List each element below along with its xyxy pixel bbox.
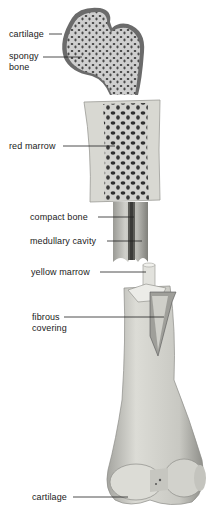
bone-illustration: [0, 0, 219, 514]
label-fibrous-covering-line1: fibrous: [32, 312, 67, 323]
label-fibrous-covering-line2: covering: [32, 323, 67, 334]
label-fibrous-covering: fibrous covering: [32, 312, 67, 334]
label-red-marrow: red marrow: [9, 141, 56, 152]
label-cartilage-top: cartilage: [9, 29, 44, 40]
label-compact-bone: compact bone: [30, 212, 88, 223]
bone-head: [62, 8, 144, 95]
label-spongy-bone-line1: spongy: [9, 51, 39, 62]
label-cartilage-bottom: cartilage: [32, 492, 67, 503]
red-marrow-block: [84, 100, 160, 202]
label-spongy-bone: spongy bone: [9, 51, 39, 73]
label-spongy-bone-line2: bone: [9, 62, 39, 73]
bone-diagram: cartilage spongy bone red marrow compact…: [0, 0, 219, 514]
label-yellow-marrow: yellow marrow: [31, 267, 90, 278]
compact-bone-shaft: [113, 202, 148, 262]
label-medullary-cavity: medullary cavity: [30, 236, 96, 247]
